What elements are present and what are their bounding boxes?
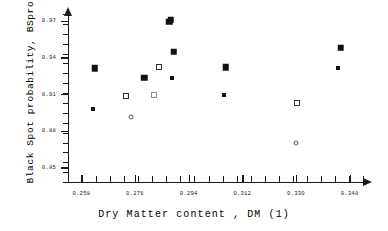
y-tick-minor [63, 83, 69, 84]
data-point-filled-large [92, 65, 99, 72]
x-tick-label: 0.330 [274, 190, 318, 197]
y-tick-minor [63, 14, 69, 15]
x-tick-major [296, 175, 297, 182]
x-tick-minor [335, 176, 336, 182]
y-tick-minor [63, 182, 69, 183]
x-tick-major [135, 175, 136, 182]
data-point-filled-large [141, 75, 148, 82]
x-tick-major [350, 175, 351, 182]
y-tick-minor [63, 73, 69, 74]
y-tick-minor [63, 172, 69, 173]
data-point-open-square [151, 92, 157, 98]
x-tick-minor [237, 176, 238, 182]
x-tick-minor [223, 176, 224, 182]
x-tick-minor [152, 176, 153, 182]
data-point-filled-large [223, 64, 230, 71]
scatter-chart: Black Spot probability, BSprob 0.850.880… [0, 0, 388, 231]
x-tick-major [242, 175, 243, 182]
y-tick-major [61, 131, 69, 132]
data-point-open-circle [128, 115, 133, 120]
y-tick-label: 0.94 [16, 54, 56, 61]
x-tick-minor [209, 176, 210, 182]
x-tick-minor [138, 176, 139, 182]
data-point-filled-small [222, 93, 226, 97]
data-point-filled-large [168, 16, 175, 23]
y-tick-minor [63, 113, 69, 114]
x-tick-minor [124, 176, 125, 182]
y-axis-line [68, 14, 69, 183]
x-tick-minor [166, 176, 167, 182]
y-tick-minor [63, 133, 69, 134]
x-tick-label: 0.276 [113, 190, 157, 197]
y-tick-minor [63, 103, 69, 104]
y-tick-minor [63, 123, 69, 124]
x-tick-minor [265, 176, 266, 182]
y-tick-major [61, 21, 69, 22]
y-tick-label: 0.91 [16, 91, 56, 98]
x-tick-minor [307, 176, 308, 182]
x-tick-label: 0.348 [328, 190, 372, 197]
x-tick-label: 0.312 [220, 190, 264, 197]
data-point-filled-small [91, 107, 95, 111]
data-point-filled-small [170, 76, 174, 80]
y-tick-minor [63, 54, 69, 55]
y-tick-label: 0.85 [16, 164, 56, 171]
data-point-open-square [156, 64, 162, 70]
y-tick-major [61, 57, 69, 58]
data-point-filled-small [336, 66, 340, 70]
y-tick-major [61, 167, 69, 168]
x-axis-arrow-icon [363, 178, 372, 186]
data-point-filled-large [337, 44, 344, 51]
y-tick-minor [63, 162, 69, 163]
y-tick-minor [63, 34, 69, 35]
x-tick-minor [293, 176, 294, 182]
x-tick-minor [96, 176, 97, 182]
x-tick-minor [321, 176, 322, 182]
plot-area: 0.850.880.910.940.97 0.2580.2760.2940.31… [0, 0, 388, 205]
x-tick-minor [279, 176, 280, 182]
x-tick-minor [251, 176, 252, 182]
x-axis-line [68, 182, 366, 183]
data-point-open-square [294, 100, 300, 106]
y-tick-minor [63, 143, 69, 144]
data-point-open-square [123, 93, 129, 99]
x-tick-label: 0.258 [59, 190, 103, 197]
y-tick-major [61, 94, 69, 95]
y-tick-minor [63, 44, 69, 45]
x-tick-minor [180, 176, 181, 182]
x-tick-label: 0.294 [167, 190, 211, 197]
y-tick-label: 0.88 [16, 127, 56, 134]
x-tick-minor [363, 176, 364, 182]
y-tick-minor [63, 24, 69, 25]
x-tick-major [81, 175, 82, 182]
x-tick-minor [110, 176, 111, 182]
y-tick-label: 0.97 [16, 17, 56, 24]
data-point-filled-large [171, 49, 178, 56]
y-tick-minor [63, 63, 69, 64]
x-tick-minor [194, 176, 195, 182]
data-point-open-circle [294, 140, 299, 145]
x-tick-major [189, 175, 190, 182]
y-tick-minor [63, 152, 69, 153]
x-tick-minor [68, 176, 69, 182]
x-axis-title: Dry Matter content , DM (1) [0, 209, 388, 220]
